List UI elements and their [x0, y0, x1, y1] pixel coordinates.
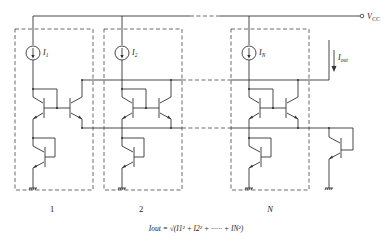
- iout-label: Iout: [337, 53, 348, 63]
- vcc-label: VCC: [367, 12, 381, 22]
- cell-1: I1: [26, 16, 83, 190]
- cell-label-n: N: [266, 204, 274, 214]
- output-formula: Iout = √(I1² + I2² + ······ + IN²): [0, 224, 392, 233]
- cell-label-2: 2: [139, 204, 143, 214]
- vcc-terminal: [360, 14, 364, 18]
- cell-2: I2: [115, 16, 172, 190]
- source-label-n: IN: [258, 48, 266, 58]
- source-label-2: I2: [131, 48, 138, 58]
- iout-arrow-icon: [332, 66, 337, 72]
- circuit-diagram: VCC 1 2 N Iout: [0, 0, 392, 245]
- cell-label-1: 1: [50, 204, 54, 214]
- source-label-1: I1: [42, 48, 49, 58]
- cell-n: IN: [242, 16, 299, 190]
- output-transistor: [325, 127, 353, 190]
